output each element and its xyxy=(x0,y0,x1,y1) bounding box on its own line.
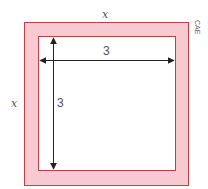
outer-width-label: x xyxy=(102,9,108,20)
square-border-diagram xyxy=(0,0,208,189)
outer-height-label: x xyxy=(11,98,17,109)
figure-tag: CAE xyxy=(194,20,201,34)
inner-height-label: 3 xyxy=(57,97,64,109)
inner-width-label: 3 xyxy=(103,45,110,57)
